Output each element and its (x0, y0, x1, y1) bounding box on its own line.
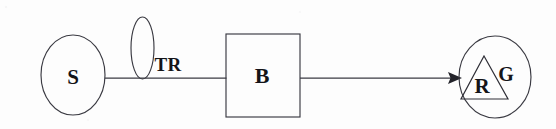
diagram-canvas: S TR B R G (0, 0, 556, 129)
node-block-rect[interactable] (226, 34, 300, 117)
block-diagram (0, 0, 556, 129)
node-goal-ellipse[interactable] (459, 36, 531, 118)
node-transducer-ellipse[interactable] (131, 17, 154, 79)
node-source-ellipse[interactable] (41, 35, 105, 115)
node-receiver-triangle[interactable] (461, 56, 508, 99)
